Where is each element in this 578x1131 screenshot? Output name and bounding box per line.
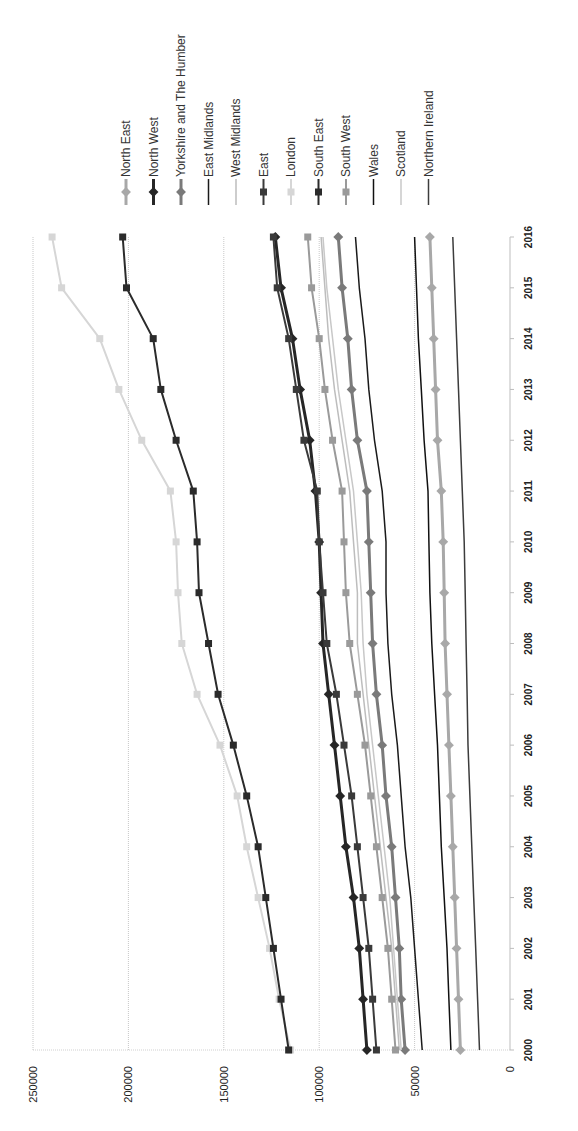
- legend: North EastNorth WestYorkshire and The Hu…: [119, 34, 436, 205]
- data-point-square: [373, 1047, 380, 1054]
- series-line: [52, 237, 291, 1050]
- value-tick-label: 0: [504, 1066, 516, 1072]
- data-point-diamond: [450, 893, 460, 903]
- data-point-diamond: [391, 893, 401, 903]
- data-point-square: [260, 189, 267, 196]
- data-point-square: [341, 538, 348, 545]
- data-point-diamond: [362, 486, 372, 496]
- data-point-square: [194, 691, 201, 698]
- year-tick-label: 2012: [523, 429, 534, 452]
- data-point-square: [361, 742, 368, 749]
- data-point-diamond: [364, 537, 374, 547]
- data-point-square: [49, 234, 56, 241]
- data-point-diamond: [425, 232, 435, 242]
- data-point-diamond: [439, 588, 449, 598]
- data-point-diamond: [454, 994, 464, 1004]
- legend-label: Scotland: [394, 130, 408, 177]
- data-point-square: [354, 843, 361, 850]
- data-point-square: [173, 437, 180, 444]
- data-point-diamond: [341, 842, 351, 852]
- data-point-diamond: [377, 740, 387, 750]
- data-point-square: [58, 284, 65, 291]
- data-point-diamond: [358, 994, 368, 1004]
- data-point-square: [320, 589, 327, 596]
- data-point-diamond: [438, 537, 448, 547]
- data-point-square: [384, 945, 391, 952]
- data-point-square: [285, 335, 292, 342]
- legend-item-west-midlands: West Midlands: [229, 99, 243, 205]
- data-point-square: [316, 538, 323, 545]
- data-point-square: [379, 894, 386, 901]
- line-chart: 0500001000001500002000002500002000200120…: [0, 0, 578, 1131]
- data-point-diamond: [343, 334, 353, 344]
- data-point-diamond: [324, 689, 334, 699]
- data-point-diamond: [387, 842, 397, 852]
- data-point-square: [175, 589, 182, 596]
- data-point-square: [348, 792, 355, 799]
- data-point-diamond: [452, 943, 462, 953]
- data-point-square: [316, 335, 323, 342]
- data-point-diamond: [333, 232, 343, 242]
- year-tick-label: 2001: [523, 988, 534, 1011]
- data-point-square: [354, 691, 361, 698]
- data-point-diamond: [446, 791, 456, 801]
- data-point-diamond: [354, 943, 364, 953]
- data-point-square: [346, 640, 353, 647]
- data-point-diamond: [176, 187, 186, 197]
- value-tick-label: 200000: [122, 1066, 134, 1103]
- data-point-square: [300, 437, 307, 444]
- legend-item-scotland: Scotland: [394, 130, 408, 205]
- year-tick-label: 2002: [523, 937, 534, 960]
- data-point-diamond: [366, 588, 376, 598]
- year-tick-label: 2007: [523, 683, 534, 706]
- legend-label: London: [284, 137, 298, 177]
- value-tick-label: 250000: [27, 1066, 39, 1103]
- data-point-square: [270, 234, 277, 241]
- data-point-square: [178, 640, 185, 647]
- data-point-square: [119, 234, 126, 241]
- legend-label: North West: [147, 117, 161, 177]
- data-point-diamond: [455, 1045, 465, 1055]
- year-tick-label: 2015: [523, 276, 534, 299]
- data-point-diamond: [381, 791, 391, 801]
- data-point-square: [392, 1047, 399, 1054]
- data-point-square: [360, 894, 367, 901]
- data-point-square: [255, 894, 262, 901]
- year-tick-label: 2006: [523, 734, 534, 757]
- legend-label: Yorkshire and The Humber: [174, 34, 188, 177]
- year-tick-label: 2008: [523, 632, 534, 655]
- series-yorkshire-and-the-humber: [333, 232, 410, 1055]
- data-point-square: [333, 691, 340, 698]
- data-point-square: [369, 996, 376, 1003]
- data-point-square: [342, 589, 349, 596]
- legend-label: Wales: [367, 144, 381, 177]
- legend-label: Northern Ireland: [422, 90, 436, 177]
- data-point-diamond: [433, 435, 443, 445]
- legend-item-wales: Wales: [367, 144, 381, 205]
- data-point-square: [288, 189, 295, 196]
- data-point-diamond: [121, 187, 131, 197]
- series-north-east: [425, 232, 465, 1055]
- year-tick-label: 2004: [523, 835, 534, 858]
- data-point-square: [205, 640, 212, 647]
- data-point-square: [194, 538, 201, 545]
- year-tick-label: 2014: [523, 327, 534, 350]
- data-point-square: [167, 488, 174, 495]
- data-point-diamond: [149, 187, 159, 197]
- year-tick-label: 2013: [523, 378, 534, 401]
- data-point-square: [365, 945, 372, 952]
- data-point-square: [367, 792, 374, 799]
- data-point-diamond: [335, 791, 345, 801]
- data-point-square: [96, 335, 103, 342]
- year-tick-label: 2005: [523, 784, 534, 807]
- data-point-square: [274, 284, 281, 291]
- data-point-square: [329, 437, 336, 444]
- legend-item-north-west: North West: [147, 117, 161, 205]
- legend-item-yorkshire-and-the-humber: Yorkshire and The Humber: [174, 34, 188, 205]
- data-point-square: [157, 386, 164, 393]
- data-point-square: [270, 945, 277, 952]
- year-tick-label: 2000: [523, 1038, 534, 1061]
- data-point-square: [388, 996, 395, 1003]
- data-point-square: [314, 488, 321, 495]
- legend-item-east: East: [257, 152, 271, 205]
